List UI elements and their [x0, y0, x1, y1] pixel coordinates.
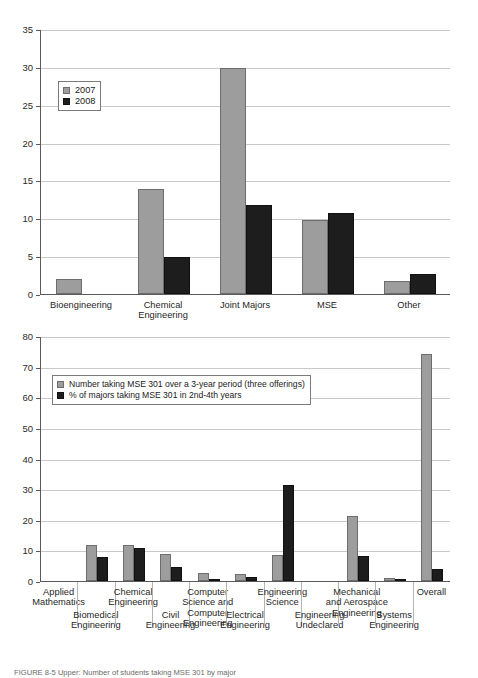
bar-number-taking-mse-301-over-a [123, 545, 134, 581]
legend-label-2008: 2008 [75, 97, 95, 106]
bar-number-taking-mse-301-over-a [384, 578, 395, 581]
legend-swatch-2008 [63, 98, 70, 105]
legend-entry: Number taking MSE 301 over a 3-year peri… [57, 379, 305, 390]
chart-legend-top: 2007 2008 [58, 81, 101, 111]
bar-number-taking-mse-301-over-a [235, 574, 246, 581]
y-axis-tick-mark [36, 68, 40, 69]
y-axis-tick-label: 20 [22, 516, 33, 526]
chart-legend-bottom: Number taking MSE 301 over a 3-year peri… [52, 375, 311, 405]
y-axis-tick-label: 5 [28, 252, 33, 262]
y-axis-tick-mark [36, 257, 40, 258]
bar-number-taking-mse-301-over-a [272, 555, 283, 581]
bar-number-taking-mse-301-over-a [86, 545, 97, 581]
y-axis-tick-mark [36, 521, 40, 522]
y-axis-tick-label: 20 [22, 139, 33, 149]
x-axis-label: Other [359, 300, 459, 310]
y-axis-tick-label: 0 [28, 577, 33, 587]
bar-chart-top: 2007 2008 05101520253035BioengineeringCh… [0, 0, 478, 318]
y-axis-tick-mark [36, 295, 40, 296]
grid-line [41, 521, 450, 522]
y-axis-tick-label: 30 [22, 63, 33, 73]
y-axis-tick-label: 15 [22, 176, 33, 186]
y-axis-tick-mark [36, 368, 40, 369]
bar-2008 [246, 205, 272, 294]
y-axis-tick-mark [36, 551, 40, 552]
bar-of-majors-taking-mse-301-in- [209, 579, 220, 581]
bar-of-majors-taking-mse-301-in- [395, 579, 406, 581]
y-axis-tick-label: 50 [22, 424, 33, 434]
y-axis-tick-label: 40 [22, 455, 33, 465]
x-axis-label: Electrical Engineering [204, 610, 286, 631]
y-axis-tick-label: 10 [22, 546, 33, 556]
bar-number-taking-mse-301-over-a [198, 573, 209, 581]
y-axis-tick-label: 80 [22, 332, 33, 342]
bar-2007 [302, 220, 328, 294]
grid-line [41, 490, 450, 491]
legend-entry: 2008 [63, 96, 95, 107]
grid-line [41, 30, 450, 31]
y-axis-tick-mark [36, 582, 40, 583]
x-axis-label: Applied Mathematics [18, 587, 100, 608]
legend-entry: % of majors taking MSE 301 in 2nd-4th ye… [57, 390, 305, 401]
bar-2007 [56, 279, 82, 294]
figure-caption: FIGURE 8-5 Upper: Number of students tak… [14, 668, 466, 677]
y-axis-tick-label: 60 [22, 393, 33, 403]
figure-container: 2007 2008 05101520253035BioengineeringCh… [0, 0, 478, 678]
y-axis-tick-mark [36, 144, 40, 145]
plot-area-bottom [40, 337, 450, 582]
bar-number-taking-mse-301-over-a [421, 354, 432, 581]
y-axis-tick-mark [36, 490, 40, 491]
y-axis-tick-mark [36, 106, 40, 107]
bar-of-majors-taking-mse-301-in- [97, 557, 108, 581]
legend-swatch-percent [57, 392, 64, 399]
grid-line [41, 368, 450, 369]
bar-of-majors-taking-mse-301-in- [246, 577, 257, 581]
grid-line [41, 460, 450, 461]
bar-2008 [164, 257, 190, 294]
bar-of-majors-taking-mse-301-in- [358, 556, 369, 581]
bar-of-majors-taking-mse-301-in- [432, 569, 443, 581]
y-axis-tick-mark [36, 181, 40, 182]
legend-swatch-2007 [63, 87, 70, 94]
y-axis-tick-mark [36, 460, 40, 461]
bar-2007 [138, 189, 164, 294]
bar-of-majors-taking-mse-301-in- [171, 567, 182, 581]
bar-of-majors-taking-mse-301-in- [283, 485, 294, 581]
y-axis-tick-mark [36, 398, 40, 399]
y-axis-tick-mark [36, 219, 40, 220]
bar-2007 [384, 281, 410, 294]
y-axis-tick-label: 30 [22, 485, 33, 495]
y-axis-tick-mark [36, 429, 40, 430]
x-axis-label: Chemical Engineering [92, 587, 174, 608]
bar-2007 [220, 68, 246, 294]
grid-line [41, 429, 450, 430]
y-axis-tick-label: 10 [22, 214, 33, 224]
y-axis-tick-mark [36, 337, 40, 338]
legend-label-percent: % of majors taking MSE 301 in 2nd-4th ye… [69, 391, 241, 400]
bar-of-majors-taking-mse-301-in- [134, 548, 145, 581]
y-axis-tick-label: 0 [28, 290, 33, 300]
y-axis-tick-mark [36, 30, 40, 31]
y-axis-tick-label: 70 [22, 363, 33, 373]
x-axis-label: Overall [390, 587, 472, 597]
x-axis-label: Biomedical Engineering [55, 610, 137, 631]
legend-swatch-count [57, 381, 64, 388]
legend-entry: 2007 [63, 85, 95, 96]
bar-number-taking-mse-301-over-a [160, 554, 171, 581]
bar-2008 [410, 274, 436, 294]
grid-line [41, 337, 450, 338]
x-axis-label: Engineering Science [241, 587, 323, 608]
grid-line [41, 551, 450, 552]
legend-label-2007: 2007 [75, 86, 95, 95]
x-axis-label: Systems Engineering [353, 610, 435, 631]
y-axis-tick-label: 35 [22, 25, 33, 35]
plot-area-top [40, 30, 450, 295]
bar-chart-bottom: Number taking MSE 301 over a 3-year peri… [0, 325, 478, 665]
y-axis-tick-label: 25 [22, 101, 33, 111]
legend-label-count: Number taking MSE 301 over a 3-year peri… [69, 380, 305, 389]
bar-number-taking-mse-301-over-a [347, 516, 358, 581]
bar-2008 [328, 213, 354, 294]
